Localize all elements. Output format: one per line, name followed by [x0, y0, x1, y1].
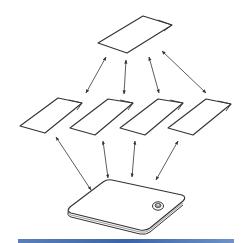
double-arrow-icon: [86, 57, 106, 93]
bottom-blue-bar: [18, 239, 234, 243]
double-arrow-icon: [124, 60, 126, 94]
middle-document-cards: [20, 98, 231, 135]
double-arrow-icon: [132, 141, 135, 177]
double-arrow-icon: [156, 141, 178, 180]
double-arrow-icon: [162, 51, 206, 93]
diagram-canvas: [0, 0, 246, 243]
double-arrow-icon: [149, 57, 159, 93]
device-button-icon: [153, 202, 164, 210]
double-arrow-icon: [103, 141, 108, 178]
handheld-device: [68, 180, 185, 235]
double-arrow-icon: [56, 137, 91, 190]
bidirectional-arrows-top-to-middle: [86, 51, 206, 94]
top-document-card: [98, 16, 172, 53]
